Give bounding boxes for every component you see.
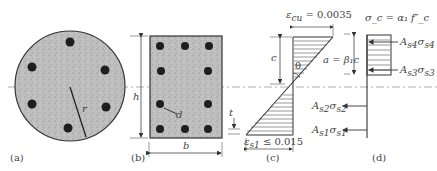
cover-label: t [229,108,233,118]
column-section-figure: r (a) h b t d (b) εcu = 0.0035 c θ a = β… [0,0,437,171]
figure-graphics [0,0,437,171]
panel-label-c: (c) [266,153,279,163]
width-label: b [183,141,189,151]
force-label-s3: As3σs3 [400,65,435,78]
force-label-s4: As4σs4 [400,37,435,50]
circular-section [15,31,125,141]
stress-block-diagram [343,35,398,138]
stress-label: σ_c = α₁ f″_c [365,13,429,23]
neutral-axis-depth-label: c [271,53,277,63]
top-strain-label: εcu = 0.0035 [286,10,352,23]
radius-label: r [82,104,87,114]
bottom-strain-label: εs1 ≤ 0.015 [244,137,303,150]
rectangular-section [130,36,240,157]
panel-label-b: (b) [131,153,145,163]
force-label-s1: As1σs1 [312,125,347,138]
force-label-s2: As2σs2 [312,101,347,114]
theta-label: θ [295,61,301,71]
height-label: h [133,92,139,102]
panel-label-a: (a) [10,153,24,163]
bar-diameter-label: d [176,110,182,120]
panel-label-d: (d) [372,153,386,163]
block-depth-label: a = β₁c [323,55,359,65]
